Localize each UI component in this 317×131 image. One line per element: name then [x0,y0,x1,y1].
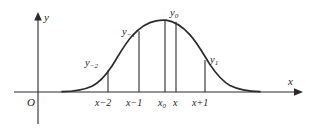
x-axis-arrowhead [294,88,303,95]
ordinate-label-y-zero-sub: 0 [175,12,179,20]
y-axis-label: y [44,12,49,23]
bell-curve-figure: y x O y−2 y−1 y0 y1 x−2 x−1 x0 x x+1 [0,0,317,131]
ordinate-label-y-one: y1 [210,55,218,67]
ordinate-label-y-minus-2: y−2 [85,58,98,70]
origin-label: O [27,97,35,108]
tick-label-x: x [173,98,177,108]
bell-curve-path [62,20,260,92]
ordinate-label-y-minus-1-sub: −1 [127,31,135,39]
x-axis-label: x [288,76,293,87]
ordinate-label-y-minus-2-sub: −2 [90,62,98,70]
tick-label-x-plus-1-base: x+1 [192,97,208,108]
tick-label-x-minus-1-base: x−1 [126,97,142,108]
tick-label-x-plus-1: x+1 [192,98,208,108]
ordinate-label-y-minus-1: y−1 [122,27,135,39]
tick-label-x-zero-sub: 0 [162,102,165,109]
ordinate-label-y-zero: y0 [170,8,178,20]
ordinate-label-y-one-sub: 1 [215,59,219,67]
y-axis-arrowhead [34,12,42,21]
tick-label-x-base: x [173,97,177,108]
tick-label-x-minus-2-base: x−2 [95,97,111,108]
tick-label-x-minus-1: x−1 [126,98,142,108]
tick-label-x-zero: x0 [158,98,166,109]
tick-label-x-minus-2: x−2 [95,98,111,108]
